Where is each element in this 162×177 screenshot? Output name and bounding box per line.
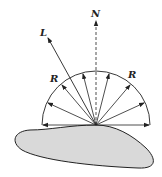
reflection-diagram: N L R R (0, 0, 162, 177)
label-reflected-right: R (127, 69, 136, 80)
label-light: L (39, 27, 47, 38)
ray-155 (48, 103, 96, 125)
label-normal: N (90, 8, 101, 19)
label-reflected-left: R (49, 73, 58, 84)
surface-blob (15, 125, 153, 168)
ray-25 (96, 103, 144, 125)
